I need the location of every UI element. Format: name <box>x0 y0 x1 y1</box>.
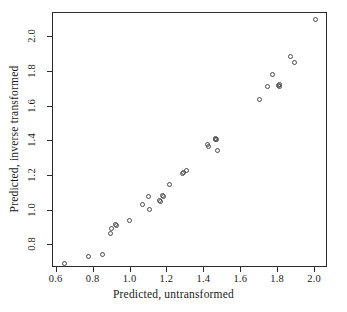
data-point <box>114 223 119 228</box>
x-axis-tick-label: 0.8 <box>86 273 100 284</box>
x-axis-tick <box>277 267 278 272</box>
data-point <box>270 72 275 77</box>
x-axis-tick-label: 1.0 <box>123 273 137 284</box>
y-axis-tick <box>47 175 52 176</box>
x-axis-tick-label: 1.8 <box>270 273 284 284</box>
x-axis-tick <box>166 267 167 272</box>
y-axis-tick <box>47 140 52 141</box>
y-axis-tick-label: 1.8 <box>26 64 37 78</box>
y-axis-tick-label: 1.6 <box>26 99 37 113</box>
x-axis-tick <box>203 267 204 272</box>
y-axis-tick-label: 1.2 <box>26 168 37 182</box>
x-axis-tick-label: 2.0 <box>307 273 321 284</box>
data-point <box>86 254 91 259</box>
data-point <box>127 218 132 223</box>
data-point <box>108 231 113 236</box>
x-axis-tick <box>56 267 57 272</box>
x-axis-tick <box>130 267 131 272</box>
x-axis-tick-label: 1.6 <box>233 273 247 284</box>
x-axis-tick <box>240 267 241 272</box>
y-axis-tick <box>47 36 52 37</box>
data-point <box>277 84 282 89</box>
data-point <box>313 17 318 22</box>
x-axis-tick-label: 1.2 <box>160 273 174 284</box>
data-point <box>265 84 270 89</box>
data-point <box>215 148 220 153</box>
y-axis-tick-label: 2.0 <box>26 29 37 43</box>
data-point <box>206 144 211 149</box>
x-axis-tick-label: 0.6 <box>49 273 63 284</box>
x-axis-tick <box>314 267 315 272</box>
data-point <box>100 252 105 257</box>
data-point <box>257 97 262 102</box>
data-point <box>161 194 166 199</box>
y-axis-tick <box>47 210 52 211</box>
y-axis-tick-label: 1.0 <box>26 203 37 217</box>
data-point <box>288 54 293 59</box>
scatter-plot-figure: Predicted, untransformed Predicted, inve… <box>0 0 347 312</box>
data-point <box>158 199 163 204</box>
x-axis-label: Predicted, untransformed <box>0 288 347 300</box>
data-point <box>184 168 189 173</box>
y-axis-tick-label: 0.8 <box>26 238 37 252</box>
y-axis-tick <box>47 244 52 245</box>
y-axis-tick <box>47 71 52 72</box>
data-point <box>140 202 145 207</box>
y-axis-tick <box>47 106 52 107</box>
data-point <box>62 261 67 266</box>
data-point <box>167 182 172 187</box>
x-axis-tick-label: 1.4 <box>196 273 210 284</box>
data-point <box>292 60 297 65</box>
plot-area <box>52 12 327 267</box>
y-axis-tick-label: 1.4 <box>26 133 37 147</box>
data-point <box>214 137 219 142</box>
y-axis-label: Predicted, inverse transformed <box>8 66 20 213</box>
data-point <box>147 207 152 212</box>
data-point <box>146 194 151 199</box>
x-axis-tick <box>93 267 94 272</box>
